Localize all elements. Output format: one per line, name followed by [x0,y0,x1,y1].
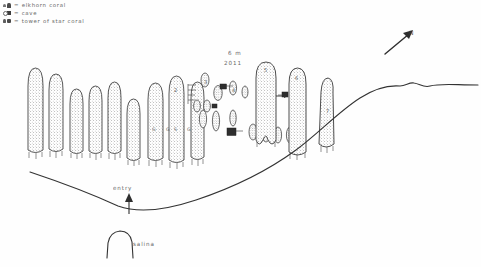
north-label: N [409,29,414,36]
coral-column [89,86,102,154]
coral-column [148,83,163,161]
coral-head [230,110,236,126]
coral-label-g: G [152,127,156,132]
cave-marker [227,128,236,136]
depth-label: 6 m [228,50,242,56]
coral-tower [256,62,276,144]
coral-number-7: 7 [326,108,329,114]
coral-head [242,86,248,98]
salina-label: salina [133,241,155,247]
coral-head [199,110,206,128]
coral-number-3: 3 [204,79,207,85]
coral-column [108,82,121,154]
salina-inlet [107,231,133,258]
coral-label-g: G [166,127,170,132]
coral-column [127,99,140,161]
small-coral-heads [194,73,294,143]
cave-marker [212,104,217,108]
map-drawing: G G S G 2 [0,0,481,267]
coral-head [204,100,211,112]
coral-column [70,89,83,154]
left-group-root-ticks [29,151,139,166]
coral-number-5: 5 [264,67,267,73]
cave-marker [220,84,227,89]
entry-label: entry [113,185,132,191]
coral-head [194,100,201,112]
coral-column [49,74,63,152]
coral-number-4: 4 [232,87,235,93]
coral-label-g: G [187,127,191,132]
left-coral-group [28,68,140,161]
coral-head [212,111,219,131]
coral-column [28,68,43,153]
coral-label-s: S [174,127,177,132]
reef-sketch-map: = elkhorn coral = cave = tower of star c… [0,0,481,267]
year-label: 2011 [224,60,242,66]
coral-tower [289,68,306,155]
coral-number-6: 6 [295,75,298,81]
entry-arrow [125,193,133,214]
coral-number-2: 2 [174,87,177,93]
